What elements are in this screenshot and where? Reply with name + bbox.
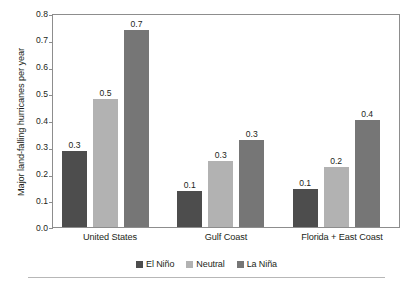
- y-axis-tick-label: 0.6: [18, 63, 48, 72]
- bar-slot: 0.1: [293, 15, 318, 227]
- plot-area: 0.30.50.70.10.30.30.10.20.4: [52, 14, 400, 228]
- bar[interactable]: [177, 191, 202, 227]
- y-axis-tick-label: 0.7: [18, 36, 48, 45]
- y-axis-tick-mark: [49, 176, 53, 177]
- bar-group-bars: 0.10.30.3: [168, 15, 283, 227]
- bar[interactable]: [124, 30, 149, 227]
- bar-group: 0.30.50.7: [53, 15, 168, 227]
- y-axis-tick-mark: [49, 42, 53, 43]
- bar[interactable]: [239, 140, 264, 227]
- y-axis-tick-mark: [49, 228, 53, 229]
- y-axis-tick-label: 0.4: [18, 117, 48, 126]
- y-axis-tick-mark: [49, 149, 53, 150]
- y-axis-tick-label: 0.0: [18, 224, 48, 233]
- bar-slot: 0.3: [239, 15, 264, 227]
- bar[interactable]: [62, 151, 87, 227]
- bottom-divider: [28, 277, 385, 278]
- bar-slot: 0.2: [324, 15, 349, 227]
- legend-label: Neutral: [196, 259, 224, 270]
- bar-value-label: 0.5: [85, 88, 126, 98]
- bar[interactable]: [208, 161, 233, 227]
- bar-value-label: 0.2: [316, 156, 357, 166]
- y-axis-tick-mark: [49, 15, 53, 16]
- bar-value-label: 0.1: [169, 180, 210, 190]
- legend-swatch-icon: [186, 261, 193, 268]
- y-axis-tick-label: 0.2: [18, 170, 48, 179]
- bar-slot: 0.3: [62, 15, 87, 227]
- bar-group: 0.10.20.4: [284, 15, 399, 227]
- bar-slot: 0.3: [208, 15, 233, 227]
- y-axis-tick-mark: [49, 202, 53, 203]
- bar-slot: 0.5: [93, 15, 118, 227]
- bar[interactable]: [93, 99, 118, 227]
- bar-groups: 0.30.50.70.10.30.30.10.20.4: [53, 15, 399, 227]
- x-axis-category-label: United States: [52, 231, 168, 245]
- legend-swatch-icon: [136, 261, 143, 268]
- bar-group-bars: 0.10.20.4: [284, 15, 399, 227]
- y-axis-tick-label: 0.1: [18, 197, 48, 206]
- legend-label: La Niña: [247, 259, 277, 270]
- bar-value-label: 0.1: [285, 178, 326, 188]
- legend-swatch-icon: [237, 261, 244, 268]
- y-axis-tick-mark: [49, 122, 53, 123]
- bar-slot: 0.4: [355, 15, 380, 227]
- bar[interactable]: [324, 167, 349, 227]
- y-axis-tick-mark: [49, 69, 53, 70]
- legend-item[interactable]: Neutral: [186, 259, 224, 270]
- chart-figure: Major land-falling hurricanes per year 0…: [0, 0, 413, 285]
- y-axis-tick-labels: 0.80.70.60.50.40.30.20.10.0: [18, 14, 48, 228]
- x-axis-category-label: Gulf Coast: [168, 231, 284, 245]
- y-axis-tick-mark: [49, 95, 53, 96]
- chart-legend: El NiñoNeutralLa Niña: [0, 257, 413, 271]
- bar-value-label: 0.7: [116, 19, 157, 29]
- bar-slot: 0.7: [124, 15, 149, 227]
- y-axis-tick-label: 0.8: [18, 10, 48, 19]
- y-axis-tick-label: 0.5: [18, 90, 48, 99]
- x-axis-category-labels: United StatesGulf CoastFlorida + East Co…: [52, 231, 400, 245]
- legend-item[interactable]: El Niño: [136, 259, 174, 270]
- bar-group-bars: 0.30.50.7: [53, 15, 168, 227]
- bar[interactable]: [355, 120, 380, 227]
- bar-value-label: 0.4: [347, 109, 388, 119]
- y-axis-tick-label: 0.3: [18, 143, 48, 152]
- bar-slot: 0.1: [177, 15, 202, 227]
- bar-group: 0.10.30.3: [168, 15, 283, 227]
- x-axis-category-label: Florida + East Coast: [284, 231, 400, 245]
- legend-item[interactable]: La Niña: [237, 259, 277, 270]
- bar[interactable]: [293, 189, 318, 227]
- legend-label: El Niño: [146, 259, 174, 270]
- bar-value-label: 0.3: [231, 129, 272, 139]
- bar-value-label: 0.3: [200, 150, 241, 160]
- bar-value-label: 0.3: [54, 140, 95, 150]
